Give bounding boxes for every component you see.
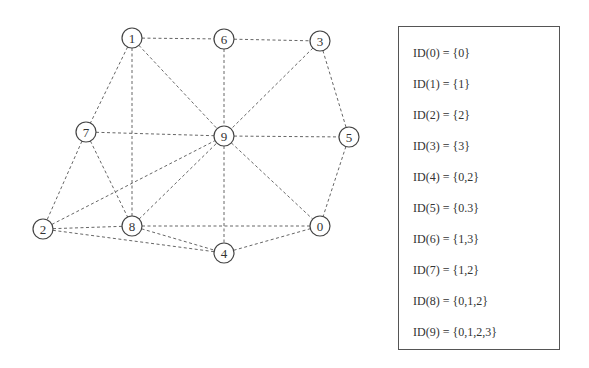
edge-7-2 xyxy=(47,141,82,220)
node-1: 1 xyxy=(122,28,142,48)
node-label: 0 xyxy=(317,219,324,234)
node-2: 2 xyxy=(33,219,53,239)
id-line-3: ID(3) = {3} xyxy=(413,139,470,153)
edge-4-0 xyxy=(234,229,311,251)
edge-7-9 xyxy=(96,132,214,135)
node-3: 3 xyxy=(310,31,330,51)
node-label: 1 xyxy=(129,31,136,46)
node-label: 2 xyxy=(40,222,47,237)
edge-6-3 xyxy=(234,39,310,41)
node-7: 7 xyxy=(76,122,96,142)
node-8: 8 xyxy=(122,216,142,236)
id-line-7: ID(7) = {1,2} xyxy=(413,263,479,277)
id-line-5: ID(5) = {0.3} xyxy=(413,201,479,215)
edge-1-9 xyxy=(139,45,217,128)
edge-9-5 xyxy=(234,136,339,137)
edge-9-0 xyxy=(231,143,312,219)
id-sets-panel: ID(0) = {0} ID(1) = {1} ID(2) = {2} ID(3… xyxy=(398,26,560,350)
node-0: 0 xyxy=(310,216,330,236)
graph-edges xyxy=(47,38,346,252)
node-label: 8 xyxy=(129,219,136,234)
edge-3-5 xyxy=(323,51,346,128)
node-label: 5 xyxy=(346,130,353,145)
id-line-8: ID(8) = {0,1,2} xyxy=(413,294,488,308)
edge-1-6 xyxy=(142,38,214,39)
node-label: 7 xyxy=(83,125,90,140)
node-label: 9 xyxy=(221,129,228,144)
id-line-6: ID(6) = {1,3} xyxy=(413,232,479,246)
id-line-4: ID(4) = {0,2} xyxy=(413,170,479,184)
id-line-1: ID(1) = {1} xyxy=(413,77,470,91)
edge-3-9 xyxy=(231,48,313,129)
edge-5-0 xyxy=(323,147,346,217)
id-line-2: ID(2) = {2} xyxy=(413,108,470,122)
node-5: 5 xyxy=(339,127,359,147)
node-label: 4 xyxy=(221,246,228,261)
node-label: 6 xyxy=(221,32,228,47)
id-line-9: ID(9) = {0,1,2,3} xyxy=(413,325,497,339)
edge-7-8 xyxy=(90,141,127,217)
node-label: 3 xyxy=(317,34,324,49)
node-4: 4 xyxy=(214,243,234,263)
edge-2-8 xyxy=(53,226,122,228)
edge-1-7 xyxy=(90,47,127,123)
node-6: 6 xyxy=(214,29,234,49)
id-line-0: ID(0) = {0} xyxy=(413,46,470,60)
node-9: 9 xyxy=(214,126,234,146)
edge-8-9 xyxy=(139,143,217,219)
edge-8-4 xyxy=(142,229,215,250)
